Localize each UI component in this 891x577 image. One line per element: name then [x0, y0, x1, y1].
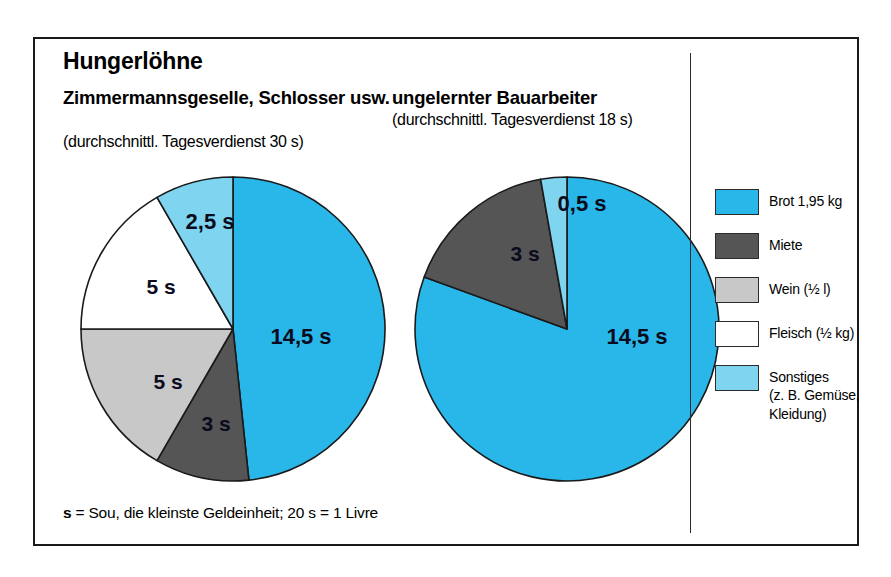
- legend-label-miete: Miete: [769, 233, 802, 254]
- legend-label-brot: Brot 1,95 kg: [769, 189, 842, 210]
- pie-slice-value-label: 0,5 s: [558, 191, 607, 216]
- legend-swatch-fleisch: [715, 321, 759, 347]
- legend-item-brot: Brot 1,95 kg: [715, 189, 865, 215]
- legend-swatch-wein: [715, 277, 759, 303]
- pie-svg-left: 14,5 s3 s5 s5 s2,5 s: [73, 169, 393, 489]
- legend-divider: [690, 53, 691, 533]
- legend-swatch-brot: [715, 189, 759, 215]
- legend-item-wein: Wein (½ l): [715, 277, 865, 303]
- right-column-subheading: (durchschnittl. Tagesverdienst 18 s): [392, 111, 633, 129]
- legend-item-fleisch: Fleisch (½ kg): [715, 321, 865, 347]
- pie-slice-value-label: 5 s: [146, 275, 175, 298]
- page-title: Hungerlöhne: [63, 48, 203, 75]
- figure-frame: Hungerlöhne Zimmermannsgeselle, Schlosse…: [33, 37, 859, 546]
- pie-slice-value-label: 3 s: [510, 242, 539, 265]
- legend-label-sonstiges: Sonstiges (z. B. Gemüse, Kleidung): [769, 365, 860, 423]
- left-column-subheading: (durchschnittl. Tagesverdienst 30 s): [63, 133, 304, 151]
- pie-svg-right: 14,5 s3 s0,5 s: [407, 169, 727, 489]
- footnote-text: = Sou, die kleinste Geldeinheit; 20 s = …: [71, 504, 378, 521]
- right-column-heading: ungelernter Bauarbeiter: [392, 87, 597, 108]
- footnote: s = Sou, die kleinste Geldeinheit; 20 s …: [63, 504, 378, 522]
- pie-chart-bauarbeiter: 14,5 s3 s0,5 s: [407, 169, 727, 489]
- pie-slice-value-label: 3 s: [201, 412, 230, 435]
- pie-slice-value-label: 2,5 s: [186, 209, 235, 234]
- legend-item-sonstiges: Sonstiges (z. B. Gemüse, Kleidung): [715, 365, 865, 423]
- legend: Brot 1,95 kgMieteWein (½ l)Fleisch (½ kg…: [715, 189, 865, 441]
- left-column-heading: Zimmermannsgeselle, Schlosser usw.: [63, 87, 390, 108]
- pie-slice-value-label: 14,5 s: [270, 324, 331, 349]
- legend-label-wein: Wein (½ l): [769, 277, 831, 298]
- pie-slice-value-label: 5 s: [153, 370, 182, 393]
- legend-item-miete: Miete: [715, 233, 865, 259]
- legend-swatch-miete: [715, 233, 759, 259]
- pie-slice-value-label: 14,5 s: [606, 324, 667, 349]
- legend-label-fleisch: Fleisch (½ kg): [769, 321, 854, 342]
- pie-chart-zimmermannsgeselle: 14,5 s3 s5 s5 s2,5 s: [73, 169, 393, 489]
- legend-swatch-sonstiges: [715, 365, 759, 391]
